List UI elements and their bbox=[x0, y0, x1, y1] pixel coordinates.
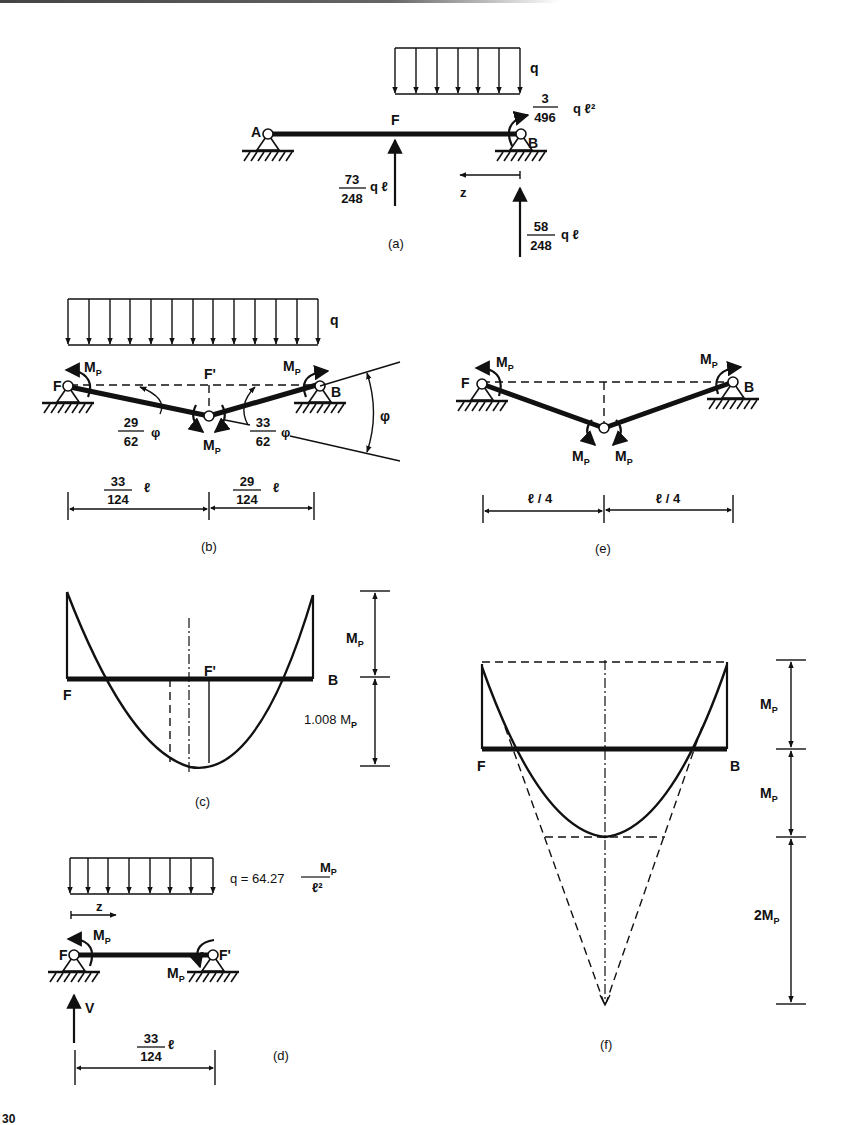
svg-text:124: 124 bbox=[107, 492, 129, 507]
caption-a: (a) bbox=[388, 236, 404, 251]
dimension-line-b bbox=[68, 492, 314, 520]
node-B: B bbox=[744, 379, 754, 395]
hinge-B bbox=[516, 129, 526, 139]
svg-text:φ: φ bbox=[281, 425, 290, 440]
dim-right-label: ℓ / 4 bbox=[656, 491, 681, 506]
structural-diagram: q A F B 3 496 q ℓ² 73 248 q ℓ z bbox=[0, 0, 850, 1125]
hinge-F bbox=[69, 950, 79, 960]
svg-text:ℓ: ℓ bbox=[168, 1037, 174, 1052]
node-B: B bbox=[331, 384, 341, 400]
z-axis-a: z bbox=[460, 171, 520, 200]
plastic-hinge-mid bbox=[599, 423, 609, 433]
svg-text:496: 496 bbox=[534, 110, 556, 125]
svg-text:q ℓ²: q ℓ² bbox=[573, 101, 596, 116]
rotation-ref-line-top bbox=[320, 362, 400, 386]
svg-text:124: 124 bbox=[140, 1049, 162, 1064]
caption-c: (c) bbox=[195, 794, 210, 809]
beam-segment-right bbox=[604, 382, 733, 428]
svg-text:ℓ: ℓ bbox=[144, 480, 150, 495]
svg-text:73: 73 bbox=[345, 172, 359, 187]
moment-label-B: MP bbox=[283, 358, 301, 377]
caption-d: (d) bbox=[273, 1048, 289, 1063]
svg-text:248: 248 bbox=[341, 191, 363, 206]
panel-d: q = 64.27 MP ℓ² z F F' MP MP V 33 124 ℓ bbox=[48, 858, 337, 1085]
node-B: B bbox=[528, 135, 538, 151]
node-F: F bbox=[461, 375, 470, 391]
svg-text:q ℓ: q ℓ bbox=[561, 227, 579, 242]
svg-text:z: z bbox=[96, 899, 103, 914]
node-F: F bbox=[63, 687, 72, 703]
svg-text:ℓ: ℓ bbox=[273, 480, 279, 495]
z-axis-d: z bbox=[71, 899, 116, 919]
moment-label-F-prime: MP bbox=[167, 965, 185, 984]
reaction-B-label: 58 248 q ℓ bbox=[527, 219, 579, 253]
total-rotation-arc bbox=[367, 373, 374, 452]
moment-label-F: MP bbox=[496, 354, 514, 373]
dimension-line-c bbox=[360, 591, 390, 766]
moment-label-F: MP bbox=[93, 927, 111, 946]
svg-text:248: 248 bbox=[530, 238, 552, 253]
node-F: F bbox=[391, 112, 400, 128]
node-A: A bbox=[251, 124, 261, 140]
reaction-label-V: V bbox=[85, 1000, 95, 1016]
dim-1-label: MP bbox=[760, 696, 778, 715]
hinge-F-prime bbox=[208, 950, 218, 960]
node-F-prime: F' bbox=[219, 947, 231, 963]
panel-b: q F F' B MP MP MP 29 62 φ 33 62 bbox=[42, 299, 400, 554]
rotation-ref-line-bottom bbox=[290, 436, 400, 461]
panel-f: F B MP MP 2MP (f) bbox=[477, 660, 806, 1052]
svg-text:ℓ²: ℓ² bbox=[312, 880, 323, 895]
dim-top-label: MP bbox=[346, 630, 364, 649]
node-F-prime: F' bbox=[204, 366, 216, 382]
load-label-q: q bbox=[530, 60, 539, 76]
plastic-hinge-F-prime bbox=[204, 411, 214, 421]
svg-text:58: 58 bbox=[534, 219, 548, 234]
dim-3-label: 2MP bbox=[754, 907, 779, 926]
dimension-line-f bbox=[776, 660, 806, 1004]
dim-left-label: ℓ / 4 bbox=[528, 491, 553, 506]
svg-text:62: 62 bbox=[256, 434, 270, 449]
moment-label-hinge-right: MP bbox=[615, 448, 633, 467]
moment-B-label: 3 496 q ℓ² bbox=[533, 91, 596, 125]
dim-label-d: 33 124 ℓ bbox=[137, 1031, 174, 1064]
hinge-F bbox=[477, 379, 487, 389]
node-B: B bbox=[328, 672, 338, 688]
load-label-q: q bbox=[330, 312, 339, 328]
distributed-load bbox=[70, 858, 213, 894]
dim-right-label: 29 124 ℓ bbox=[233, 474, 279, 507]
node-B: B bbox=[730, 758, 740, 774]
panel-a: q A F B 3 496 q ℓ² 73 248 q ℓ z bbox=[242, 48, 596, 257]
svg-text:33: 33 bbox=[256, 415, 270, 430]
beam-segment-left bbox=[70, 387, 209, 416]
angle-phi-label: φ bbox=[380, 408, 390, 424]
moment-label-hinge-left: MP bbox=[572, 448, 590, 467]
node-F: F bbox=[53, 378, 62, 394]
svg-text:33: 33 bbox=[144, 1031, 158, 1046]
hinge-A bbox=[263, 129, 273, 139]
hinge-B bbox=[728, 377, 738, 387]
moment-label-F: MP bbox=[84, 359, 102, 378]
svg-text:29: 29 bbox=[240, 474, 254, 489]
moment-arrow-hinge-left bbox=[193, 405, 203, 432]
angle-left-label: 29 62 φ bbox=[118, 415, 160, 449]
svg-text:33: 33 bbox=[111, 474, 125, 489]
hinge-F bbox=[63, 381, 73, 391]
page-number: 30 bbox=[2, 1112, 15, 1125]
dim-left-label: 33 124 ℓ bbox=[104, 474, 150, 507]
caption-e: (e) bbox=[595, 541, 611, 556]
distributed-load: q bbox=[68, 299, 339, 345]
svg-text:z: z bbox=[460, 185, 467, 200]
svg-text:MP: MP bbox=[320, 860, 337, 877]
tangent-line-left bbox=[505, 727, 604, 1003]
svg-text:62: 62 bbox=[124, 434, 138, 449]
load-formula: q = 64.27 MP ℓ² bbox=[230, 860, 337, 895]
dimension-line-e bbox=[483, 495, 733, 523]
panel-e: F B MP MP MP MP ℓ / 4 ℓ / 4 (e) bbox=[456, 351, 759, 556]
moment-arrow-hinge-right bbox=[215, 405, 225, 432]
node-F: F bbox=[59, 947, 68, 963]
svg-text:φ: φ bbox=[151, 425, 160, 440]
svg-text:3: 3 bbox=[541, 91, 548, 106]
caption-f: (f) bbox=[600, 1037, 612, 1052]
caption-b: (b) bbox=[201, 539, 217, 554]
dim-2-label: MP bbox=[760, 785, 778, 804]
